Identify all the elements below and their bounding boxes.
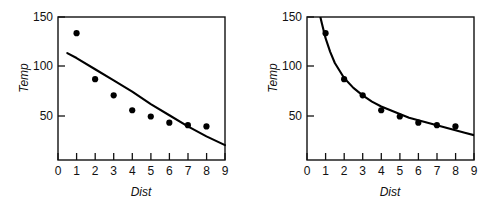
left-x-ticks [58,153,225,160]
left-xtick-label-8: 8 [203,164,210,178]
data-point [360,92,366,98]
left-y-ticks [58,17,65,116]
right-xtick-label-8: 8 [452,164,459,178]
right-xtick-label-6: 6 [415,164,422,178]
left-xtick-label-4: 4 [129,164,136,178]
left-ytick-label-50: 50 [40,109,54,123]
data-point [185,122,191,128]
left-xtick-label-6: 6 [166,164,173,178]
left-xtick-label-1: 1 [73,164,80,178]
right-xtick-label-2: 2 [341,164,348,178]
data-point [148,113,154,119]
data-point [92,76,98,82]
left-xtick-label-3: 3 [110,164,117,178]
right-xtick-label-7: 7 [434,164,441,178]
right-plot-panel: 150 100 50 0 1 2 3 4 5 6 7 8 9 Temp Dist [249,0,498,205]
right-xtick-label-5: 5 [397,164,404,178]
right-plot-frame [307,17,474,160]
left-fit-line [67,53,225,145]
right-ytick-label-150: 150 [282,10,302,24]
right-xtick-label-9: 9 [471,164,478,178]
right-xtick-label-3: 3 [359,164,366,178]
right-y-ticks [307,17,314,116]
left-plot-frame [58,17,225,160]
left-y-axis-title: Temp [17,63,31,93]
left-xtick-label-9: 9 [222,164,229,178]
right-xtick-label-4: 4 [378,164,385,178]
left-xtick-label-2: 2 [92,164,99,178]
data-point [452,123,458,129]
left-ytick-label-100: 100 [33,59,53,73]
right-xtick-label-0: 0 [304,164,311,178]
right-plot-svg: 150 100 50 0 1 2 3 4 5 6 7 8 9 Temp Dist [249,0,498,205]
data-point [415,120,421,126]
data-point [341,76,347,82]
data-point [129,107,135,113]
right-y-axis-title: Temp [266,63,280,93]
right-x-ticks [307,153,474,160]
data-point [322,30,328,36]
data-point [73,30,79,36]
data-point [203,123,209,129]
right-x-axis-title: Dist [380,185,401,199]
right-data-points [322,30,458,129]
two-panel-scatter-figure: 150 100 50 0 1 2 3 4 5 6 7 8 9 Temp Dist [0,0,498,205]
right-ytick-label-50: 50 [289,109,303,123]
left-xtick-label-7: 7 [185,164,192,178]
left-fit-line-group [67,53,225,145]
data-point [378,107,384,113]
right-xtick-label-1: 1 [322,164,329,178]
left-ytick-label-150: 150 [33,10,53,24]
left-plot-panel: 150 100 50 0 1 2 3 4 5 6 7 8 9 Temp Dist [0,0,249,205]
left-data-points [73,30,209,129]
data-point [166,120,172,126]
data-point [111,92,117,98]
right-ytick-label-100: 100 [282,59,302,73]
data-point [397,113,403,119]
left-plot-svg: 150 100 50 0 1 2 3 4 5 6 7 8 9 Temp Dist [0,0,249,205]
left-x-axis-title: Dist [131,185,152,199]
data-point [434,122,440,128]
left-xtick-label-5: 5 [148,164,155,178]
left-xtick-label-0: 0 [55,164,62,178]
